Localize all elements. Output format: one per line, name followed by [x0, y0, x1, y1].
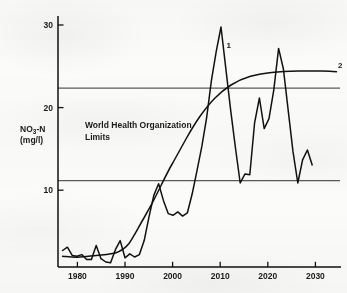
chart-figure: 30 20 10 1980 1990 2000 2010 2020 2030 N… — [0, 0, 347, 293]
series-labels-group: 1 2 — [227, 41, 344, 70]
series-2-label: 2 — [338, 61, 343, 70]
x-tick-label-2010: 2010 — [211, 271, 230, 281]
y-ticks-group — [58, 25, 64, 190]
x-tick-label-1980: 1980 — [68, 271, 87, 281]
y-tick-label-10: 10 — [44, 185, 54, 195]
y-axis-title-units: (mg/l) — [20, 135, 43, 145]
y-tick-label-20: 20 — [44, 103, 54, 113]
y-axis-title-group: NO3-N (mg/l) — [20, 124, 45, 145]
y-axis-title-line1: NO3-N — [20, 124, 45, 135]
x-tick-label-2030: 2030 — [306, 271, 325, 281]
y-axis-title-tail: -N — [36, 124, 45, 134]
chart-plot-area: 30 20 10 1980 1990 2000 2010 2020 2030 N… — [0, 0, 347, 293]
x-tick-label-2000: 2000 — [163, 271, 182, 281]
x-ticks-group — [77, 262, 315, 267]
y-tick-labels-group: 30 20 10 — [44, 20, 54, 195]
x-tick-labels-group: 1980 1990 2000 2010 2020 2030 — [68, 271, 325, 281]
who-limits-line1: World Health Organization — [85, 120, 192, 130]
series-1-line — [63, 27, 313, 263]
series-1-label: 1 — [227, 41, 232, 50]
y-tick-label-30: 30 — [44, 20, 54, 30]
who-limits-line2: Limits — [85, 132, 110, 142]
who-limits-annotation: World Health Organization Limits — [85, 120, 192, 142]
x-tick-label-1990: 1990 — [116, 271, 135, 281]
y-axis-title-formula: NO — [20, 124, 33, 134]
x-tick-label-2020: 2020 — [258, 271, 277, 281]
